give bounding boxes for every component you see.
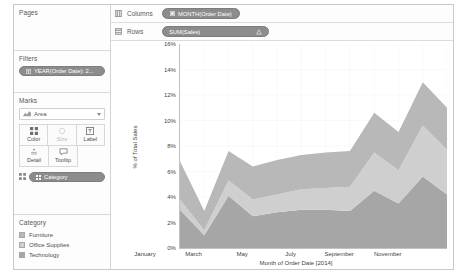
mark-type-label: Area (34, 111, 94, 117)
legend-label-technology: Technology (29, 252, 59, 258)
columns-shelf-slot[interactable]: MONTH(Order Date) (162, 8, 449, 19)
y-axis-ticks: 0%2%4%6%8%10%12%14%16% (157, 44, 179, 249)
pages-card-title: Pages (19, 9, 105, 16)
x-axis-tick: July (285, 251, 296, 257)
marks-pill-category[interactable]: Category (29, 172, 105, 182)
marks-color-button[interactable]: Color (19, 124, 48, 146)
left-panel: Pages Filters YEAR(Order Date): 2... Mar… (14, 5, 111, 269)
x-axis-ticks: JanuaryMarchMayJulySeptemberNovember (145, 249, 447, 260)
color-encoding-icon (19, 173, 26, 181)
x-axis-tick: March (185, 251, 202, 257)
rows-shelf-slot[interactable]: SUM(Sales) (162, 26, 449, 37)
pages-shelf-dropzone[interactable] (19, 20, 105, 44)
y-axis-title: % of Total Sales (114, 44, 157, 249)
color-legend-card: Category Furniture Office Supplies Techn… (14, 215, 110, 269)
marks-label-button[interactable]: Label (76, 124, 105, 146)
marks-pill-category-label: Category (44, 174, 68, 180)
x-axis: JanuaryMarchMayJulySeptemberNovember Mon… (114, 249, 447, 267)
legend-swatch-office-supplies (19, 242, 25, 248)
mark-type-select[interactable]: Area (19, 108, 105, 120)
columns-shelf-label: Columns (127, 10, 157, 17)
label-icon (86, 127, 94, 135)
filters-card-title: Filters (19, 55, 105, 62)
pages-card: Pages (14, 5, 110, 51)
x-axis-tick: September (324, 251, 353, 257)
y-axis-tick: 6% (167, 169, 176, 175)
area-mark-icon (23, 110, 31, 118)
legend-item-technology[interactable]: Technology (19, 250, 105, 260)
y-axis-tick: 4% (167, 194, 176, 200)
stacked-area-chart (180, 44, 447, 248)
rows-shelf[interactable]: Rows SUM(Sales) (111, 23, 453, 41)
marks-size-label: Size (57, 137, 68, 143)
y-axis-tick: 2% (167, 220, 176, 226)
marks-tooltip-button[interactable]: Tooltip (48, 145, 78, 167)
y-axis-tick: 12% (164, 92, 176, 98)
y-axis-tick: 10% (164, 118, 176, 124)
x-axis-tick: November (374, 251, 402, 257)
marks-label-label: Label (84, 137, 97, 143)
columns-shelf[interactable]: Columns MONTH(Order Date) (111, 5, 453, 23)
marks-size-button[interactable]: Size (47, 124, 76, 146)
delta-icon (256, 29, 262, 35)
right-panel: Columns MONTH(Order Date) Rows SUM(Sales… (111, 5, 453, 269)
date-pill-icon (170, 11, 175, 16)
tableau-worksheet-window: Pages Filters YEAR(Order Date): 2... Mar… (13, 4, 454, 270)
rows-shelf-icon (115, 28, 122, 35)
marks-card: Marks Area Color (14, 93, 110, 215)
legend-item-office-supplies[interactable]: Office Supplies (19, 240, 105, 250)
columns-shelf-icon (115, 10, 122, 17)
rows-pill-sum-sales[interactable]: SUM(Sales) (162, 26, 269, 37)
marks-detail-button[interactable]: Detail (19, 145, 49, 167)
legend-title: Category (19, 219, 105, 226)
columns-pill-month-order-date[interactable]: MONTH(Order Date) (162, 8, 240, 19)
tooltip-icon (59, 148, 68, 156)
columns-pill-label: MONTH(Order Date) (178, 11, 232, 17)
legend-label-office-supplies: Office Supplies (29, 242, 69, 248)
y-axis-tick: 14% (164, 67, 176, 73)
chevron-down-icon[interactable] (97, 113, 101, 116)
marks-buttons-row-2: Detail Tooltip (19, 145, 105, 167)
filter-pill-year-order-date[interactable]: YEAR(Order Date): 2... (19, 66, 105, 76)
rows-pill-label: SUM(Sales) (169, 29, 200, 35)
legend-swatch-technology (19, 252, 25, 258)
viz-plot-row: % of Total Sales 0%2%4%6%8%10%12%14%16% (114, 44, 447, 249)
color-icon (30, 127, 38, 135)
dimension-pill-icon (36, 175, 41, 180)
x-axis-tick: May (236, 251, 247, 257)
x-axis-tick: January (134, 251, 155, 257)
marks-encoding-row: Category (19, 172, 105, 182)
marks-color-label: Color (27, 137, 40, 143)
y-axis-title-text: % of Total Sales (132, 125, 138, 168)
legend-item-furniture[interactable]: Furniture (19, 230, 105, 240)
x-axis-title: Month of Order Date [2014] (145, 260, 447, 267)
filters-card: Filters YEAR(Order Date): 2... (14, 51, 110, 93)
y-axis-tick: 8% (167, 143, 176, 149)
marks-card-title: Marks (19, 97, 105, 104)
y-axis-tick: 16% (164, 41, 176, 47)
marks-detail-label: Detail (27, 158, 41, 164)
size-icon (58, 127, 66, 135)
detail-icon (30, 148, 38, 156)
legend-label-furniture: Furniture (29, 232, 53, 238)
marks-buttons-row-1: Color Size Label (19, 124, 105, 146)
marks-tooltip-label: Tooltip (55, 158, 71, 164)
plot-area[interactable] (179, 44, 447, 249)
visualization-area: % of Total Sales 0%2%4%6%8%10%12%14%16% … (111, 41, 453, 269)
rows-shelf-label: Rows (127, 28, 157, 35)
filter-pill-label: YEAR(Order Date): 2... (34, 68, 94, 74)
marks-buttons-spacer (77, 145, 105, 167)
filter-pill-icon (26, 69, 31, 74)
legend-swatch-furniture (19, 232, 25, 238)
